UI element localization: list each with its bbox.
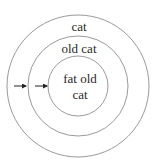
label-fat-old-cat-line2: cat bbox=[72, 87, 88, 102]
nested-circles-diagram: cat old cat fat old cat bbox=[0, 0, 157, 168]
label-fat-old: fat old bbox=[63, 71, 97, 86]
label-old-cat: old cat bbox=[61, 41, 96, 56]
inner-circle-fat-old-cat bbox=[48, 56, 108, 116]
label-cat: cat bbox=[71, 19, 87, 34]
